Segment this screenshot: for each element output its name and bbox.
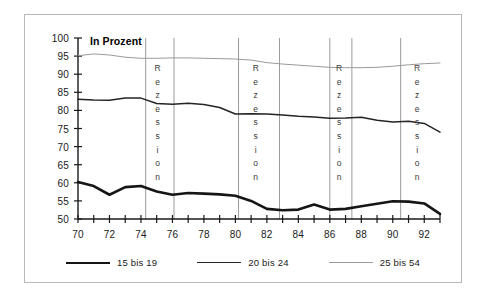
y-tick-label: 100 [52, 33, 69, 44]
y-tick-label: 55 [57, 195, 69, 206]
x-tick-label: 74 [135, 229, 147, 240]
y-tick-label: 85 [57, 87, 69, 98]
legend-item: 15 bis 19 [66, 257, 157, 268]
y-tick-label: 65 [57, 159, 69, 170]
series-lines [78, 54, 440, 214]
legend-swatch-icon [197, 262, 241, 263]
y-tick-label: 60 [57, 177, 69, 188]
x-tick-label: 84 [293, 229, 305, 240]
plot-area: In Prozent 50556065707580859095100 70727… [78, 38, 440, 219]
y-tick-label: 95 [57, 51, 69, 62]
x-tick-label: 76 [167, 229, 179, 240]
x-tick-label: 70 [72, 229, 84, 240]
axis-ticks [74, 38, 440, 223]
chart-figure: In Prozent 50556065707580859095100 70727… [24, 14, 462, 283]
legend-item: 20 bis 24 [197, 257, 288, 268]
recession-bands [146, 38, 401, 219]
legend-label: 20 bis 24 [248, 257, 288, 268]
legend-swatch-icon [66, 262, 110, 264]
x-tick-label: 92 [418, 229, 430, 240]
y-tick-label: 75 [57, 123, 69, 134]
legend-label: 15 bis 19 [117, 257, 157, 268]
x-tick-label: 72 [104, 229, 116, 240]
axis-lines [78, 38, 440, 219]
legend-item: 25 bis 54 [329, 257, 420, 268]
y-tick-label: 90 [57, 69, 69, 80]
x-tick-label: 78 [198, 229, 210, 240]
legend-swatch-icon [329, 262, 373, 263]
x-tick-label: 90 [387, 229, 399, 240]
x-tick-label: 86 [324, 229, 336, 240]
legend-label: 25 bis 54 [380, 257, 420, 268]
y-tick-label: 80 [57, 105, 69, 116]
chart-legend: 15 bis 1920 bis 2425 bis 54 [25, 257, 461, 268]
y-tick-label: 70 [57, 141, 69, 152]
x-tick-label: 88 [356, 229, 368, 240]
y-tick-label: 50 [57, 214, 69, 225]
x-tick-label: 82 [261, 229, 273, 240]
x-tick-label: 80 [230, 229, 242, 240]
chart-canvas [78, 38, 440, 219]
